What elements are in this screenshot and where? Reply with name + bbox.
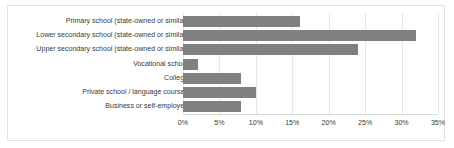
bar-row: College xyxy=(8,72,444,85)
bar-track xyxy=(183,100,438,113)
chart-container: Primary school (state-owned or similar)L… xyxy=(7,5,445,141)
category-label: Vocational school xyxy=(133,58,188,71)
x-axis-tick-labels: 0%5%10%15%20%25%30%35% xyxy=(183,116,438,130)
category-label: Private school / language courses xyxy=(82,86,188,99)
bar-track xyxy=(183,29,438,42)
category-label: Business or self-employed xyxy=(105,100,188,113)
bar-track xyxy=(183,72,438,85)
bar xyxy=(183,59,198,70)
bar-row: Private school / language courses xyxy=(8,86,444,99)
x-tick-label: 35% xyxy=(431,116,445,130)
category-label: Upper secondary school (state-owned or s… xyxy=(36,43,188,56)
x-tick-label: 10% xyxy=(249,116,263,130)
bar-track xyxy=(183,58,438,71)
bar-row: Lower secondary school (state-owned or s… xyxy=(8,29,444,42)
bar xyxy=(183,101,241,112)
x-tick-label: 25% xyxy=(358,116,372,130)
category-label: Lower secondary school (state-owned or s… xyxy=(36,29,188,42)
bar-track xyxy=(183,15,438,28)
x-tick-label: 0% xyxy=(178,116,188,130)
bar-track xyxy=(183,86,438,99)
bar xyxy=(183,16,300,27)
bar xyxy=(183,30,416,41)
bar xyxy=(183,44,358,55)
bar-track xyxy=(183,43,438,56)
plot-area: Primary school (state-owned or similar)L… xyxy=(8,6,444,140)
x-tick-label: 30% xyxy=(394,116,408,130)
x-tick-label: 20% xyxy=(322,116,336,130)
x-tick-label: 15% xyxy=(285,116,299,130)
x-tick-label: 5% xyxy=(214,116,224,130)
bar xyxy=(183,73,241,84)
bar-row: Vocational school xyxy=(8,58,444,71)
bar-row: Upper secondary school (state-owned or s… xyxy=(8,43,444,56)
bar-row: Primary school (state-owned or similar) xyxy=(8,15,444,28)
bar-row: Business or self-employed xyxy=(8,100,444,113)
x-axis-line xyxy=(183,114,438,115)
bar xyxy=(183,87,256,98)
category-label: Primary school (state-owned or similar) xyxy=(66,15,188,28)
